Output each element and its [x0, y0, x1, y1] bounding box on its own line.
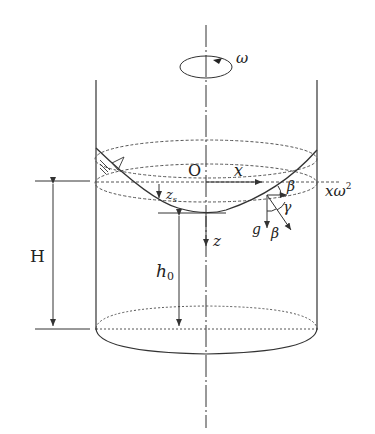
g-label: g	[252, 221, 261, 237]
omega-label: ω	[236, 49, 248, 67]
H-label: H	[30, 246, 45, 266]
origin-label: O	[188, 161, 201, 180]
z-axis-label: z	[212, 232, 221, 250]
beta-top-label: β	[286, 178, 295, 194]
beta-bottom-label: β	[270, 225, 279, 241]
h0-label: h0	[156, 261, 174, 283]
zs-label: zs	[165, 187, 177, 204]
rotating-cylinder-diagram: ω O x z zs h0 H β	[0, 0, 375, 434]
gamma-label: γ	[283, 199, 292, 215]
centrifugal-label: xω2	[325, 181, 351, 200]
x-axis-label: x	[234, 161, 243, 180]
